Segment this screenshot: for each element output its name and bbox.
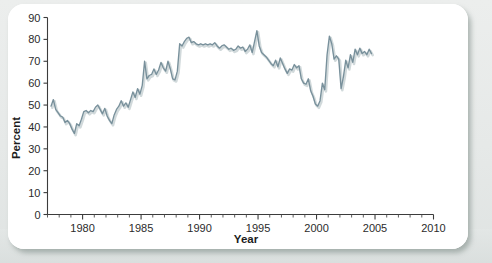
x-tick-label: 2000	[304, 222, 328, 234]
x-tick-label: 2005	[363, 222, 387, 234]
y-tick-label: 70	[28, 55, 40, 67]
y-tick-label: 40	[28, 121, 40, 133]
x-tick-label: 1980	[70, 222, 94, 234]
x-tick-label: 1985	[129, 222, 153, 234]
y-tick-label: 0	[34, 209, 40, 221]
y-tick-label: 90	[28, 12, 40, 24]
x-tick-label: 1995	[246, 222, 270, 234]
line-chart-svg: 0102030405060708090198019851990199520002…	[0, 0, 492, 263]
y-tick-label: 50	[28, 99, 40, 111]
y-tick-label: 10	[28, 187, 40, 199]
chart-plot-area: 0102030405060708090198019851990199520002…	[0, 0, 492, 263]
tick-labels-group: 0102030405060708090198019851990199520002…	[28, 12, 445, 234]
y-tick-label: 30	[28, 143, 40, 155]
y-tick-label: 80	[28, 33, 40, 45]
x-axis-title: Year	[234, 233, 259, 245]
x-tick-label: 1990	[187, 222, 211, 234]
y-axis-title: Percent	[10, 117, 22, 159]
y-tick-label: 20	[28, 165, 40, 177]
x-tick-label: 2010	[421, 222, 445, 234]
y-tick-label: 60	[28, 77, 40, 89]
data-series-group	[51, 31, 373, 135]
